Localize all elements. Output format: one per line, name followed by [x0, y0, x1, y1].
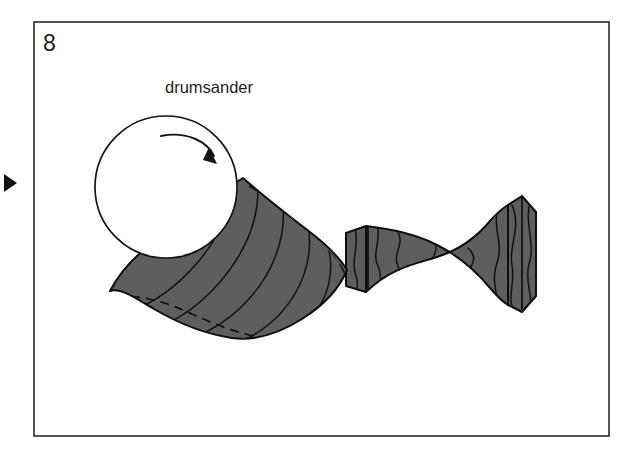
- figure-illustration: 8 drumsander: [0, 0, 643, 465]
- drumsander-label: drumsander: [165, 78, 254, 96]
- sanding-drum: [95, 116, 237, 258]
- figure-number: 8: [43, 30, 56, 56]
- narrow-neck-collar: [346, 226, 366, 294]
- sanding-drum-circle-icon: [95, 116, 237, 258]
- faceted-end-block: [508, 196, 536, 312]
- figure-page: 8 drumsander: [0, 0, 643, 465]
- play-triangle-marker-icon: [4, 174, 17, 192]
